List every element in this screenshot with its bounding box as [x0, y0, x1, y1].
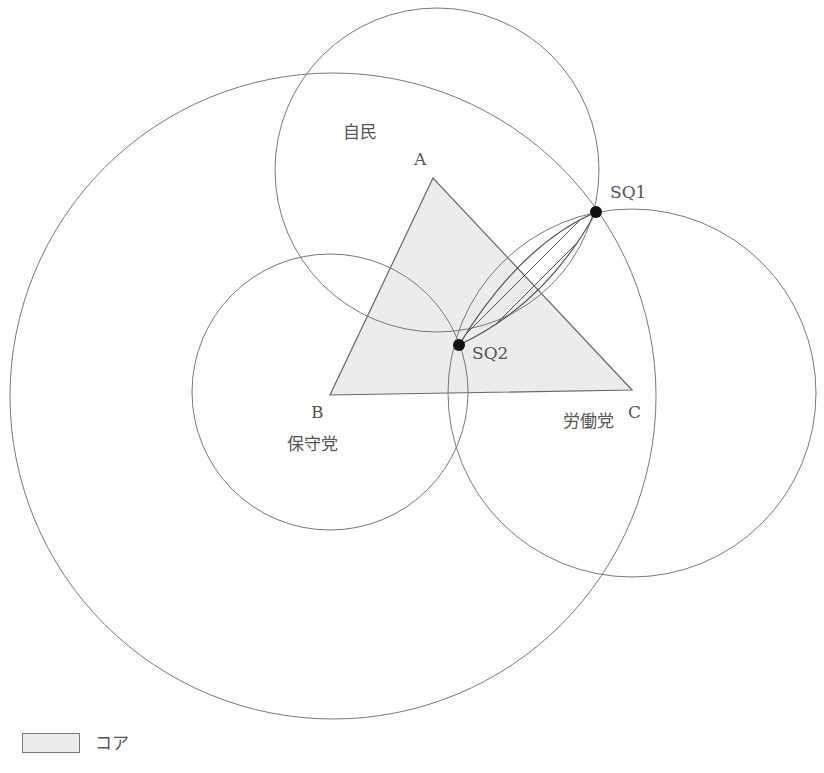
hoshu-label: 保守党 [287, 436, 338, 453]
core-legend-label: コア [95, 735, 129, 752]
sq1-label: SQ1 [610, 184, 646, 201]
vertex-c-label: C [628, 404, 641, 421]
jimin-label: 自民 [343, 124, 377, 141]
core-legend-swatch [22, 733, 80, 753]
rodo-label: 労働党 [563, 413, 614, 430]
sq2-point [453, 339, 465, 351]
vertex-a-label: A [414, 151, 426, 168]
sq2-label: SQ2 [472, 345, 508, 362]
vertex-b-label: B [311, 404, 324, 421]
large-circle [10, 73, 656, 719]
diagram-canvas [0, 0, 824, 773]
sq1-point [590, 206, 602, 218]
